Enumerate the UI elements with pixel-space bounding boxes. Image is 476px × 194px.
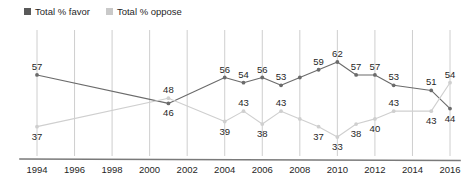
data-label-oppose-2012: 40	[370, 123, 381, 134]
data-label-oppose-2007: 43	[276, 97, 287, 108]
x-tick-2006: 2006	[252, 164, 273, 175]
data-label-oppose-2015: 43	[426, 115, 437, 126]
data-label-oppose-2004: 39	[219, 126, 230, 137]
data-point-oppose-2010	[335, 135, 339, 139]
data-label-favor-2001: 46	[163, 107, 174, 118]
data-point-oppose-2012	[373, 117, 377, 121]
x-tick-1994: 1994	[26, 164, 47, 175]
data-point-favor-2006	[260, 76, 264, 80]
data-label-oppose-2001: 48	[163, 84, 174, 95]
data-label-oppose-2010: 33	[332, 141, 343, 152]
data-label-favor-2006: 56	[257, 64, 268, 75]
data-point-favor-2008	[298, 76, 302, 80]
data-point-favor-2015	[429, 89, 433, 93]
data-label-favor-2004: 56	[219, 64, 230, 75]
data-point-oppose-2006	[260, 122, 264, 126]
data-label-favor-2015: 51	[426, 76, 437, 87]
data-point-favor-2009	[317, 68, 321, 72]
x-tick-2016: 2016	[439, 164, 460, 175]
data-label-favor-2005: 54	[238, 69, 249, 80]
x-tick-2014: 2014	[402, 164, 423, 175]
data-point-favor-2007	[279, 83, 283, 87]
data-point-favor-2013	[392, 83, 396, 87]
data-label-favor-2016: 44	[445, 113, 456, 124]
x-tick-1996: 1996	[64, 164, 85, 175]
data-label-oppose-2006: 38	[257, 128, 268, 139]
data-point-oppose-2001	[167, 96, 171, 100]
x-tick-2000: 2000	[139, 164, 160, 175]
data-point-favor-2011	[354, 73, 358, 77]
x-tick-2012: 2012	[364, 164, 385, 175]
data-point-favor-2010	[335, 60, 339, 64]
data-label-favor-2010: 62	[332, 48, 343, 59]
data-point-favor-2012	[373, 73, 377, 77]
data-label-favor-2012: 57	[370, 61, 381, 72]
line-chart: Total % favor Total % oppose 57465654565…	[0, 0, 476, 194]
x-tick-2008: 2008	[289, 164, 310, 175]
data-label-oppose-2009: 37	[313, 131, 324, 142]
data-point-oppose-2009	[317, 125, 321, 129]
x-tick-2004: 2004	[214, 164, 235, 175]
x-tick-2002: 2002	[177, 164, 198, 175]
data-point-oppose-2008	[298, 117, 302, 121]
data-label-favor-1994: 57	[32, 61, 43, 72]
data-point-oppose-2016	[448, 81, 452, 85]
data-label-favor-2013: 53	[388, 71, 399, 82]
data-point-oppose-2013	[392, 109, 396, 113]
data-point-oppose-1994	[35, 125, 39, 129]
data-point-favor-2016	[448, 107, 452, 111]
data-point-oppose-2005	[242, 109, 246, 113]
data-label-oppose-2013: 43	[388, 97, 399, 108]
x-tick-1998: 1998	[102, 164, 123, 175]
data-point-favor-2001	[167, 101, 171, 105]
data-point-oppose-2015	[429, 109, 433, 113]
data-label-oppose-2005: 43	[238, 97, 249, 108]
data-label-oppose-1994: 37	[32, 131, 43, 142]
data-label-favor-2009: 59	[313, 56, 324, 67]
data-point-favor-2004	[223, 76, 227, 80]
data-point-oppose-2011	[354, 122, 358, 126]
data-point-favor-1994	[35, 73, 39, 77]
data-label-favor-2007: 53	[276, 71, 287, 82]
data-label-favor-2011: 57	[351, 61, 362, 72]
data-label-oppose-2011: 38	[351, 128, 362, 139]
x-axis-line	[20, 159, 460, 161]
data-point-favor-2005	[242, 81, 246, 85]
data-point-oppose-2007	[279, 109, 283, 113]
data-label-oppose-2016: 54	[445, 69, 456, 80]
x-tick-2010: 2010	[327, 164, 348, 175]
data-point-oppose-2004	[223, 120, 227, 124]
